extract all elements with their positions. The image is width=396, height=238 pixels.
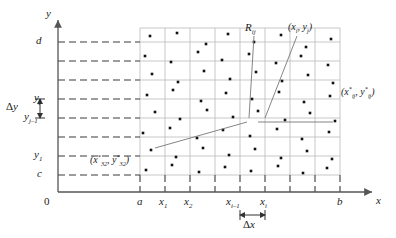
sample-dot bbox=[179, 118, 182, 121]
sample-dot bbox=[154, 111, 157, 114]
delta-x-var: x bbox=[250, 218, 255, 230]
sample-dot bbox=[202, 147, 205, 150]
sample-point-32-open: (x bbox=[90, 154, 98, 165]
sample-point-32-star-2: * bbox=[117, 153, 120, 160]
sample-dot bbox=[228, 154, 231, 157]
sample-dot bbox=[280, 34, 283, 37]
sample-dot bbox=[248, 53, 251, 56]
sample-dot bbox=[284, 119, 287, 122]
sample-dot bbox=[170, 61, 173, 64]
sample-dot bbox=[206, 109, 209, 112]
x-axis-label: x bbox=[376, 195, 381, 206]
subrectangle-sub: ij bbox=[252, 28, 256, 35]
sample-dot bbox=[229, 78, 232, 81]
sample-dot bbox=[306, 150, 309, 153]
x-tick-label-xi-1: xi–1 bbox=[226, 196, 240, 210]
sample-dot bbox=[249, 135, 252, 138]
x-tick-x1-sub: 1 bbox=[164, 202, 167, 209]
y-tick-yj-sub: j bbox=[39, 98, 41, 105]
y-tick-label-y1: y1 bbox=[34, 149, 42, 163]
sample-dot bbox=[250, 170, 253, 173]
sample-dot bbox=[146, 94, 149, 97]
x-tick-xi1-sub: i–1 bbox=[231, 202, 240, 209]
sample-point-star-1: * bbox=[349, 85, 352, 92]
sample-dot bbox=[150, 149, 153, 152]
sample-point-32-mid: , y bbox=[107, 154, 116, 165]
corner-point-label: (xi, yj) bbox=[288, 22, 312, 34]
sample-dot bbox=[196, 137, 199, 140]
delta-y-label: Δy bbox=[6, 101, 18, 112]
y-tick-yj1-sub: j–1 bbox=[29, 117, 38, 124]
sample-dot bbox=[301, 138, 304, 141]
sample-dot bbox=[307, 74, 310, 77]
sample-dot bbox=[171, 164, 174, 167]
x-tick-label-x2: x2 bbox=[184, 196, 192, 210]
riemann-sum-diagram: y x 0 d yj yj–1 y1 c a x1 x2 xi–1 xi b Δ… bbox=[0, 0, 396, 238]
delta-x-label: Δx bbox=[243, 219, 255, 230]
sample-dot bbox=[200, 100, 203, 103]
sample-dot bbox=[205, 43, 208, 46]
sample-dot bbox=[221, 59, 224, 62]
sample-dot bbox=[277, 165, 280, 168]
corner-point-mid: , y bbox=[298, 21, 307, 32]
origin-label: 0 bbox=[44, 196, 50, 207]
sample-dot bbox=[302, 172, 305, 175]
sample-dot bbox=[257, 110, 260, 113]
sample-dot bbox=[144, 55, 147, 58]
sample-dot bbox=[255, 71, 258, 74]
leader-lines bbox=[155, 36, 333, 148]
sample-dot bbox=[280, 157, 283, 160]
sample-dot bbox=[334, 120, 337, 123]
x-tick-label-xi: xi bbox=[260, 196, 267, 210]
subrectangle-main: R bbox=[245, 21, 252, 33]
sample-point-label: (x*ij, y*ij) bbox=[341, 86, 375, 100]
sample-dot bbox=[300, 55, 303, 58]
sample-dot bbox=[329, 95, 332, 98]
leader-line-corner-point bbox=[265, 36, 297, 118]
sample-dot bbox=[176, 32, 179, 35]
x-tick-xi-sub: i bbox=[265, 202, 267, 209]
sample-dot bbox=[224, 166, 227, 169]
leader-line-sample-point-32 bbox=[155, 122, 247, 148]
sample-dot bbox=[151, 73, 154, 76]
sample-dot bbox=[197, 51, 200, 54]
vertical-dashed-guides bbox=[140, 175, 340, 192]
x-tick-label-b: b bbox=[337, 196, 343, 207]
sample-dot bbox=[275, 62, 278, 65]
sample-dot bbox=[172, 89, 175, 92]
sample-dot bbox=[276, 128, 279, 131]
sample-dot bbox=[227, 33, 230, 36]
sample-dot bbox=[175, 156, 178, 159]
sample-point-32-label: (x*32, y*32) bbox=[90, 154, 129, 168]
sample-dot bbox=[327, 64, 330, 67]
sample-point-open: (x bbox=[341, 86, 349, 97]
sample-point-32-star-1: * bbox=[98, 153, 101, 160]
sample-dot bbox=[254, 148, 257, 151]
sample-dot bbox=[328, 131, 331, 134]
corner-point-close: ) bbox=[309, 21, 312, 32]
leader-line-subrectangle bbox=[249, 36, 254, 118]
sample-dot bbox=[332, 82, 335, 85]
sample-dot bbox=[145, 169, 148, 172]
x-tick-label-x1: x1 bbox=[159, 196, 167, 210]
delta-y-var: y bbox=[13, 100, 18, 112]
sample-dot bbox=[232, 116, 235, 119]
y-tick-label-c: c bbox=[37, 168, 42, 179]
x-tick-x2-sub: 2 bbox=[189, 202, 192, 209]
sample-dot bbox=[169, 127, 172, 130]
sample-dot bbox=[303, 101, 306, 104]
sample-point-close: ) bbox=[371, 86, 374, 97]
corner-point-open: (x bbox=[288, 21, 296, 32]
sample-dots bbox=[142, 32, 337, 175]
sample-point-star-2: * bbox=[365, 85, 368, 92]
sample-point-mid: , y bbox=[355, 86, 364, 97]
grid-lines bbox=[140, 28, 340, 175]
sample-dot bbox=[281, 80, 284, 83]
y-tick-label-yj: yj bbox=[34, 92, 41, 106]
sample-dot bbox=[142, 132, 145, 135]
sample-dot bbox=[309, 112, 312, 115]
subrectangle-label: Rij bbox=[245, 22, 256, 36]
y-axis-label: y bbox=[46, 8, 51, 19]
sample-point-32-close: ) bbox=[126, 154, 129, 165]
sample-dot bbox=[198, 171, 201, 174]
